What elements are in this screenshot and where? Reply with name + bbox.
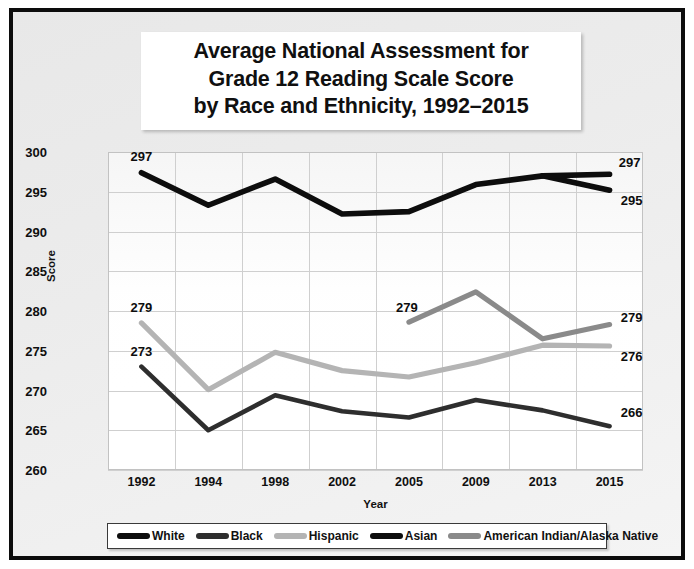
y-axis-tick-label: 290 (0, 224, 47, 239)
legend-swatch-icon (274, 533, 307, 540)
y-axis-tick-label: 280 (0, 304, 47, 319)
legend-swatch-icon (448, 533, 481, 540)
legend-item[interactable]: Black (196, 529, 263, 543)
y-axis-tick-label: 265 (0, 423, 47, 438)
series-line (543, 174, 610, 176)
legend-item-label: American Indian/Alaska Native (483, 529, 658, 543)
legend-item[interactable]: White (117, 529, 185, 543)
y-axis-tick-label: 270 (0, 383, 47, 398)
legend-item-label: Black (231, 529, 263, 543)
legend-swatch-icon (370, 533, 403, 540)
chart-legend: WhiteBlackHispanicAsianAmerican Indian/A… (107, 523, 607, 549)
plot-area (108, 152, 643, 470)
series-line (141, 323, 609, 390)
y-axis-tick-label: 285 (0, 264, 47, 279)
y-axis-tick-label: 300 (0, 145, 47, 160)
chart-title-line-1: Average National Assessment for (151, 38, 571, 66)
chart-canvas: 260265270275280285290295300 199219941998… (13, 12, 689, 564)
data-point-label: 279 (396, 300, 418, 315)
x-axis-title: Year (108, 498, 643, 510)
chart-title: Average National Assessment for Grade 12… (141, 32, 581, 130)
data-point-label: 295 (621, 193, 643, 208)
legend-item-label: White (152, 529, 185, 543)
chart-title-line-3: by Race and Ethnicity, 1992–2015 (151, 93, 571, 121)
chart-screenshot: 260265270275280285290295300 199219941998… (0, 0, 694, 569)
series-line (409, 292, 610, 339)
data-point-label: 297 (619, 155, 641, 170)
data-point-label: 297 (131, 148, 153, 163)
chart-frame: 260265270275280285290295300 199219941998… (9, 8, 685, 560)
legend-item-label: Asian (405, 529, 438, 543)
data-point-label: 276 (621, 348, 643, 363)
data-point-label: 266 (621, 405, 643, 420)
chart-title-line-2: Grade 12 Reading Scale Score (151, 66, 571, 94)
gridline-horizontal (108, 470, 643, 471)
legend-item-label: Hispanic (309, 529, 359, 543)
legend-item[interactable]: Hispanic (274, 529, 359, 543)
y-axis-tick-label: 260 (0, 463, 47, 478)
legend-item[interactable]: Asian (370, 529, 438, 543)
y-axis-tick-label: 295 (0, 184, 47, 199)
legend-swatch-icon (117, 533, 150, 540)
y-axis-tick-label: 275 (0, 343, 47, 358)
series-lines (108, 152, 643, 470)
series-line (141, 173, 609, 214)
legend-item[interactable]: American Indian/Alaska Native (448, 529, 658, 543)
data-point-label: 279 (621, 309, 643, 324)
x-axis-tick-label: 2015 (570, 475, 650, 489)
legend-swatch-icon (196, 533, 229, 540)
data-point-label: 273 (131, 343, 153, 358)
data-point-label: 279 (131, 299, 153, 314)
y-axis-title: Score (45, 250, 57, 282)
